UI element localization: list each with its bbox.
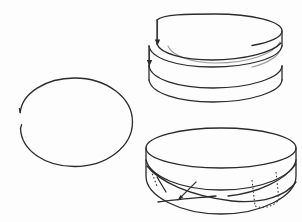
mobius-crossing-strand-front — [147, 166, 296, 202]
mobius-outline — [146, 128, 296, 214]
mobius-hidden-edge-right-inner — [252, 180, 255, 206]
mobius-inner-front-edge — [146, 160, 296, 190]
mobius-arrow-shaft — [180, 182, 196, 198]
figure-mobius-band — [0, 0, 302, 222]
mobius-top-rim — [146, 128, 296, 168]
mobius-crossing-strand-back-tail — [158, 196, 216, 202]
figure-sheet — [0, 0, 302, 222]
